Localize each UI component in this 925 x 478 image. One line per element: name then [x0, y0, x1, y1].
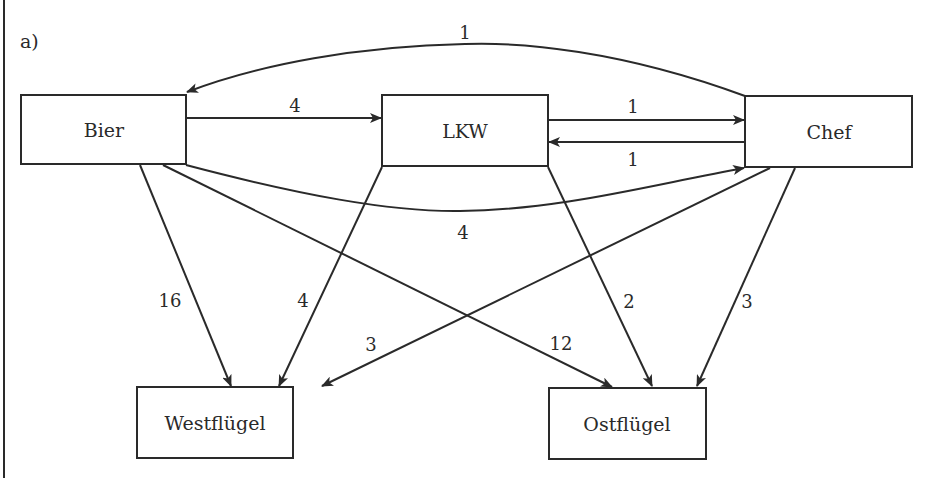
- edge-label-chef-bier: 1: [459, 22, 470, 43]
- edge-label-chef-westfluegel: 3: [365, 334, 376, 355]
- node-ostfluegel-label: Ostflügel: [583, 413, 670, 435]
- edge-label-bier-westfluegel: 16: [159, 290, 182, 311]
- flow-diagram: a) 1 4 1 1 4 16 12 4 2 3 3 Bier LKW Chef…: [0, 0, 925, 478]
- edge-chef-ostfluegel: [697, 168, 795, 386]
- edge-label-chef-ostfluegel: 3: [741, 291, 752, 312]
- edge-label-bier-chef: 4: [457, 222, 468, 243]
- node-bier: Bier: [21, 95, 186, 164]
- edge-label-bier-lkw: 4: [289, 95, 300, 116]
- node-westfluegel: Westflügel: [137, 387, 293, 458]
- edge-label-lkw-westfluegel: 4: [297, 290, 308, 311]
- node-chef-label: Chef: [806, 121, 853, 143]
- edge-label-chef-lkw: 1: [627, 149, 638, 170]
- edge-label-lkw-ostfluegel: 2: [623, 291, 634, 312]
- node-westfluegel-label: Westflügel: [164, 412, 265, 434]
- edge-bier-chef: [186, 165, 744, 211]
- edge-label-lkw-chef: 1: [627, 96, 638, 117]
- edge-label-bier-ostfluegel: 12: [550, 333, 573, 354]
- node-lkw-label: LKW: [442, 120, 488, 142]
- edge-bier-westfluegel: [140, 165, 231, 386]
- part-label: a): [20, 30, 39, 52]
- node-bier-label: Bier: [84, 119, 125, 141]
- node-ostfluegel: Ostflügel: [549, 388, 706, 459]
- node-chef: Chef: [745, 96, 912, 167]
- node-lkw: LKW: [382, 95, 548, 166]
- edge-chef-bier: [187, 44, 745, 96]
